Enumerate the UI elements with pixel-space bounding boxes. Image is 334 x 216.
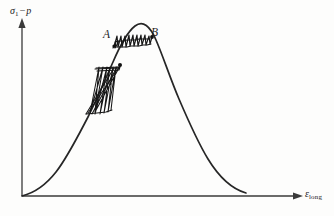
point-a-marker (112, 44, 115, 47)
lower-hysteresis-loops (86, 63, 122, 114)
point-label-a: A (103, 29, 110, 41)
y-axis-label-p: p (26, 5, 31, 16)
stress-strain-figure: A B σ1−p εlong (0, 0, 334, 216)
stress-strain-curve (22, 24, 246, 196)
x-axis-label-subscript: long (309, 193, 322, 201)
x-axis-label: εlong (305, 189, 322, 201)
lower-loop-marker (118, 63, 122, 67)
x-axis-arrow-icon (293, 192, 303, 199)
point-label-b: B (151, 27, 158, 39)
plot-canvas (0, 0, 334, 216)
y-axis-label: σ1−p (10, 6, 31, 18)
y-axis-arrow-icon (18, 18, 25, 28)
upper-hysteresis-loops (112, 35, 154, 48)
